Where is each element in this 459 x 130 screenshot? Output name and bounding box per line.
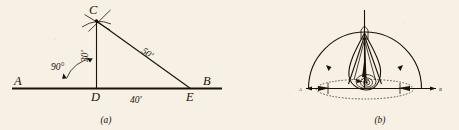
label-B-b: B xyxy=(439,87,442,92)
vertex-point-C xyxy=(95,19,98,22)
figure-a: A B C D E 30' 40' 50' 90° (a) xyxy=(0,0,230,130)
arc-arrow-right xyxy=(398,65,404,71)
arc-arrow-left xyxy=(326,65,332,71)
label-A-b: A xyxy=(298,87,302,92)
label-D: D xyxy=(90,90,100,104)
measure-label-40ft: 40' xyxy=(130,95,143,105)
range-pole-left xyxy=(314,83,330,94)
arrow-right-b xyxy=(430,86,436,90)
figure-plate: A B C D E 30' 40' 50' 90° (a) xyxy=(0,0,459,130)
label-B: B xyxy=(203,74,211,88)
measure-label-50ft: 50' xyxy=(140,46,156,61)
label-E: E xyxy=(185,90,194,104)
measure-label-30ft: 30' xyxy=(80,50,90,64)
angle-label-90deg: 90° xyxy=(51,62,65,72)
figure-b: A B (b) xyxy=(230,0,459,130)
label-C: C xyxy=(89,3,98,17)
caption-b: (b) xyxy=(374,115,385,126)
label-A: A xyxy=(13,74,22,88)
range-pole-right xyxy=(396,83,414,94)
caption-a: (a) xyxy=(100,115,111,126)
plumb-center xyxy=(365,81,367,83)
